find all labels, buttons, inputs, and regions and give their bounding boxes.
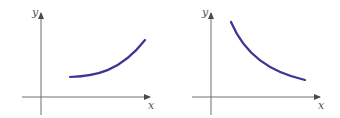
x-axis-label: x	[318, 99, 325, 112]
increasing-curve	[70, 40, 145, 77]
x-axis-label: x	[148, 99, 155, 112]
y-axis-label: y	[31, 6, 39, 19]
right-graph: x y	[192, 6, 325, 115]
y-axis-label: y	[201, 6, 209, 19]
figure: x y x y	[0, 0, 340, 118]
left-graph: x y	[22, 6, 155, 115]
decreasing-curve	[231, 22, 305, 80]
